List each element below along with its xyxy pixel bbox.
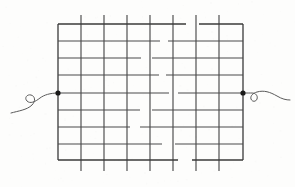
grain-speck xyxy=(2,46,4,48)
grain-speck xyxy=(221,162,223,163)
grain-speck xyxy=(33,153,34,155)
grain-speck xyxy=(54,177,55,179)
grain-speck xyxy=(15,85,17,87)
grain-speck xyxy=(86,126,87,128)
grain-speck xyxy=(72,116,74,117)
grain-speck xyxy=(142,133,143,135)
grain-speck xyxy=(258,170,260,171)
grain-speck xyxy=(49,9,50,10)
grain-speck xyxy=(103,182,104,183)
grain-speck xyxy=(9,134,11,136)
grain-speck xyxy=(104,113,105,114)
grain-speck xyxy=(94,138,96,140)
grain-speck xyxy=(119,109,120,111)
grain-speck xyxy=(236,106,237,108)
grain-speck xyxy=(77,119,79,120)
grain-speck xyxy=(84,16,86,18)
grain-speck xyxy=(93,157,94,158)
grain-speck xyxy=(257,53,259,54)
grain-speck xyxy=(143,94,145,95)
grain-speck xyxy=(273,123,274,124)
grain-speck xyxy=(157,136,159,137)
grain-speck xyxy=(123,10,124,12)
grain-speck xyxy=(233,150,234,151)
grain-speck xyxy=(186,147,187,148)
grain-speck xyxy=(141,1,142,2)
grain-speck xyxy=(177,157,179,159)
grain-speck xyxy=(238,138,240,139)
grain-speck xyxy=(108,85,110,86)
grain-speck xyxy=(27,59,29,61)
grain-speck xyxy=(242,126,243,127)
grain-speck xyxy=(177,181,179,183)
grain-speck xyxy=(64,118,66,119)
grain-speck xyxy=(183,125,184,127)
grain-speck xyxy=(14,46,15,48)
grain-speck xyxy=(131,158,132,160)
grain-speck xyxy=(38,70,39,71)
grain-speck xyxy=(46,22,48,24)
grain-speck xyxy=(93,153,94,154)
wire-grid-diagram xyxy=(0,0,295,187)
grain-speck xyxy=(163,81,164,82)
grain-speck xyxy=(273,142,275,144)
grain-speck xyxy=(11,89,12,90)
grain-speck xyxy=(191,51,192,52)
grain-speck xyxy=(164,180,165,182)
grain-speck xyxy=(274,91,275,93)
grain-speck xyxy=(64,120,66,122)
grain-speck xyxy=(210,2,212,4)
grain-speck xyxy=(227,149,229,150)
grain-speck xyxy=(213,33,215,34)
grain-speck xyxy=(82,109,84,110)
grain-speck xyxy=(9,118,10,120)
grain-speck xyxy=(117,33,118,35)
grain-speck xyxy=(129,80,130,82)
grain-speck xyxy=(142,7,143,9)
grain-speck xyxy=(46,148,48,150)
grain-speck xyxy=(104,88,106,89)
grain-speck xyxy=(146,183,148,185)
grain-speck xyxy=(35,142,36,143)
grain-speck xyxy=(201,41,203,42)
grain-speck xyxy=(259,102,261,104)
grain-speck xyxy=(226,35,228,37)
grain-speck xyxy=(213,109,215,110)
grain-speck xyxy=(83,89,85,91)
grain-speck xyxy=(167,8,168,9)
grain-speck xyxy=(23,84,25,85)
grain-speck xyxy=(119,101,120,102)
grain-speck xyxy=(126,126,127,127)
grain-speck xyxy=(209,167,210,168)
grain-speck xyxy=(30,135,31,136)
grain-speck xyxy=(10,178,12,179)
grain-speck xyxy=(145,27,146,28)
grain-speck xyxy=(253,91,255,93)
grain-speck xyxy=(130,77,131,78)
grain-speck xyxy=(203,106,205,108)
grain-speck xyxy=(55,170,56,171)
grain-speck xyxy=(37,87,39,88)
grain-speck xyxy=(181,63,183,64)
grain-speck xyxy=(276,76,277,77)
grain-speck xyxy=(52,99,53,100)
grain-speck xyxy=(227,38,228,40)
grain-speck xyxy=(90,87,92,88)
grain-speck xyxy=(66,77,67,78)
grain-speck xyxy=(207,85,209,86)
grain-speck xyxy=(83,146,85,148)
grain-speck xyxy=(197,67,198,69)
grain-speck xyxy=(275,100,276,101)
grain-speck xyxy=(160,48,161,49)
grain-speck xyxy=(10,23,12,24)
grain-speck xyxy=(137,106,139,107)
grain-speck xyxy=(30,70,31,71)
grain-speck xyxy=(42,58,44,59)
grain-speck xyxy=(263,14,264,15)
grain-speck xyxy=(231,125,233,127)
grain-speck xyxy=(147,165,148,167)
grain-speck xyxy=(249,181,251,182)
grain-speck xyxy=(77,143,78,144)
grain-speck xyxy=(227,51,228,52)
grain-speck xyxy=(240,165,241,167)
